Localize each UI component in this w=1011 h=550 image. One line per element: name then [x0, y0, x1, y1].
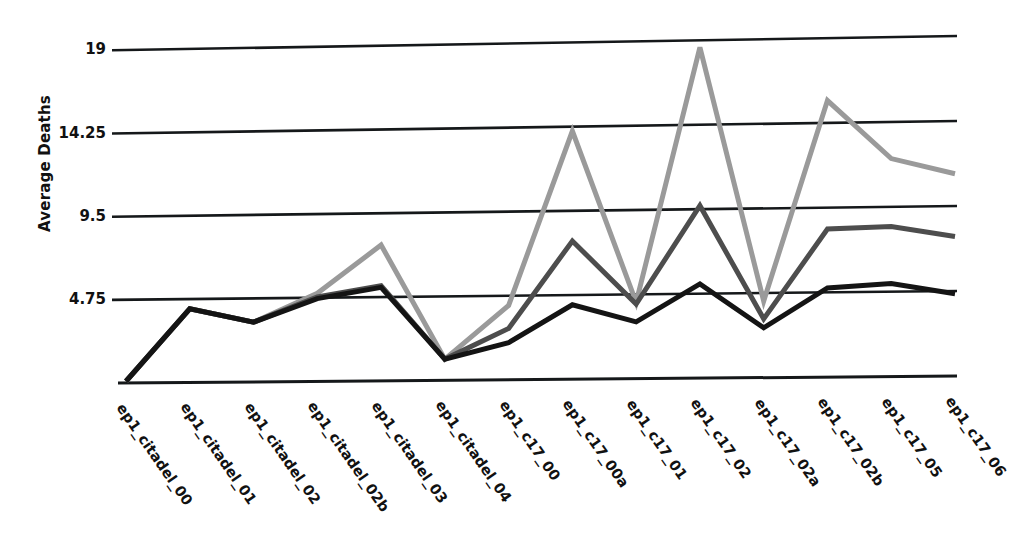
gridline	[112, 36, 957, 50]
gridline	[112, 121, 957, 133]
x-axis-line	[118, 376, 957, 383]
line-chart: Average Deaths 4.759.514.2519 ep1_citade…	[0, 0, 1011, 550]
axis-baseline	[118, 376, 957, 383]
gridlines	[112, 36, 957, 300]
gridline	[112, 206, 957, 217]
